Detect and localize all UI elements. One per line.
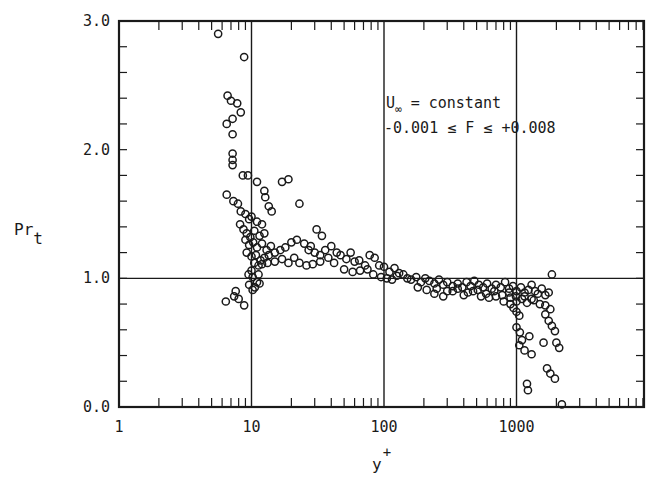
data-points (215, 30, 566, 408)
annotation-constant: = constant (402, 94, 501, 112)
plot-frame (119, 21, 644, 407)
y-tick-label: 3.0 (83, 12, 110, 30)
data-point (548, 271, 555, 278)
data-point (341, 266, 348, 273)
data-point (528, 295, 535, 302)
data-point (349, 268, 356, 275)
x-tick-label: 1000 (498, 418, 534, 436)
x-axis-title: y+ (372, 444, 391, 474)
data-point (223, 120, 230, 127)
x-tick-label: 10 (242, 418, 260, 436)
x-tick-labels: 1101001000 (114, 418, 534, 436)
y-tick-label: 0.0 (83, 398, 110, 416)
data-point (215, 30, 222, 37)
data-point (241, 302, 248, 309)
y-tick-label: 2.0 (83, 141, 110, 159)
annotation: U∞ = constant -0.001 ≤ F ≤ +0.008 (384, 94, 556, 137)
y-axis-title-sub: t (33, 229, 43, 248)
y-axis-title-main: Pr (14, 220, 34, 239)
data-point (296, 259, 303, 266)
data-point (528, 351, 535, 358)
data-point (423, 286, 430, 293)
data-point (318, 232, 325, 239)
y-tick-labels: 0.01.02.03.0 (83, 12, 110, 416)
x-tick-label: 1 (114, 418, 123, 436)
data-point (234, 100, 241, 107)
y-tick-label: 1.0 (83, 269, 110, 287)
data-point (229, 162, 236, 169)
data-point (271, 258, 278, 265)
data-point (229, 131, 236, 138)
data-point (253, 244, 260, 251)
y-axis-title: Prt (14, 220, 43, 248)
data-point (330, 259, 337, 266)
data-point (540, 339, 547, 346)
minor-ticks (119, 21, 644, 407)
annotation-line-2: -0.001 ≤ F ≤ +0.008 (384, 119, 556, 137)
data-point (521, 347, 528, 354)
x-axis-title-main: y (372, 455, 382, 474)
data-point (347, 249, 354, 256)
data-point (243, 249, 250, 256)
data-point (356, 267, 363, 274)
data-point (241, 53, 248, 60)
data-point (258, 240, 265, 247)
annotation-line-1: U∞ = constant (386, 94, 501, 116)
x-axis-title-sup: + (383, 444, 391, 460)
data-point (370, 271, 377, 278)
data-point (244, 172, 251, 179)
x-tick-label: 100 (370, 418, 397, 436)
data-point (526, 333, 533, 340)
data-point (223, 191, 230, 198)
data-point (313, 226, 320, 233)
data-point (285, 176, 292, 183)
annotation-u: U (386, 94, 395, 112)
data-point (376, 262, 383, 269)
scatter-chart: 0.01.02.03.0 1101001000 Prt y+ U∞ = cons… (0, 0, 663, 486)
data-point (253, 178, 260, 185)
data-point (551, 375, 558, 382)
data-point (328, 243, 335, 250)
data-point (222, 298, 229, 305)
grid-lines (119, 21, 644, 407)
data-point (237, 109, 244, 116)
data-point (296, 200, 303, 207)
